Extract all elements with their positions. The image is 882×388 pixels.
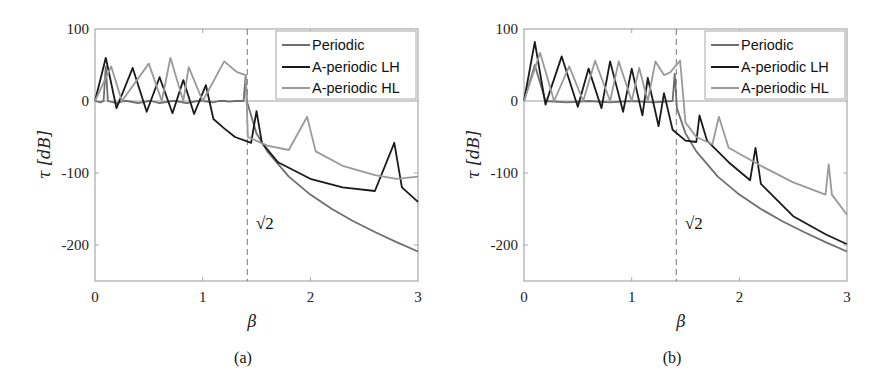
xtick-1-b: 1	[628, 289, 636, 305]
caption-a: (a)	[234, 349, 252, 367]
caption-b: (b)	[663, 349, 682, 367]
legend-periodic-a: Periodic	[312, 37, 364, 53]
ylabel-b: τ [dB]	[464, 130, 483, 179]
legend-periodic-b: Periodic	[741, 37, 793, 53]
ytick-100-b: 100	[496, 21, 519, 37]
ytick-m200-a: -200	[62, 237, 90, 253]
ytick-m200-b: -200	[491, 237, 519, 253]
ytick-0-b: 0	[511, 93, 519, 109]
ylabel-a: τ [dB]	[35, 130, 54, 179]
figure: 100 0 -100 -200 0 1 2 3 β τ [dB] √2 (a) …	[0, 0, 882, 388]
xtick-0-b: 0	[520, 289, 528, 305]
xtick-2-b: 2	[736, 289, 744, 305]
ytick-0-a: 0	[82, 93, 90, 109]
xlabel-b: β	[675, 312, 685, 331]
xtick-0-a: 0	[91, 289, 99, 305]
panel-a: 100 0 -100 -200 0 1 2 3 β τ [dB] √2 (a) …	[35, 21, 422, 367]
ytick-100-a: 100	[67, 21, 90, 37]
legend-lh-b: A-periodic LH	[741, 59, 829, 75]
xlabel-a: β	[246, 312, 256, 331]
legend-a: Periodic A-periodic LH A-periodic HL	[276, 31, 416, 99]
legend-hl-b: A-periodic HL	[741, 80, 829, 96]
sqrt2-label-a: √2	[256, 214, 274, 233]
xtick-1-a: 1	[199, 289, 207, 305]
ytick-m100-a: -100	[62, 165, 90, 181]
xtick-2-a: 2	[307, 289, 315, 305]
xtick-3-b: 3	[843, 289, 851, 305]
legend-b: Periodic A-periodic LH A-periodic HL	[705, 31, 845, 99]
panel-b: 100 0 -100 -200 0 1 2 3 β τ [dB] √2 (b) …	[464, 21, 851, 367]
xtick-3-a: 3	[414, 289, 422, 305]
sqrt2-label-b: √2	[685, 214, 703, 233]
ytick-m100-b: -100	[491, 165, 519, 181]
legend-lh-a: A-periodic LH	[312, 59, 400, 75]
legend-hl-a: A-periodic HL	[312, 80, 400, 96]
